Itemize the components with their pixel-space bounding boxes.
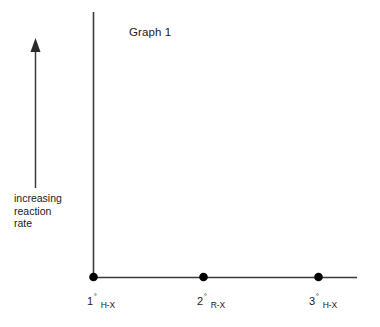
x-tick-ordinal-secondary: 2 [197, 295, 203, 307]
y-axis-label-line-3: rate [14, 217, 62, 230]
x-tick-species-tertiary: H-X [323, 300, 337, 310]
degree-icon-tertiary: ° [316, 292, 319, 301]
y-axis-label: increasing reaction rate [14, 192, 62, 230]
x-tick-label-tertiary: 3°H-X [309, 291, 337, 309]
x-tick-species-primary: H-X [101, 300, 115, 310]
x-tick-ordinal-primary: 1 [87, 295, 93, 307]
degree-icon-secondary: ° [204, 292, 207, 301]
y-axis-label-line-2: reaction [14, 205, 62, 218]
x-tick-ordinal-tertiary: 3 [309, 295, 315, 307]
degree-icon-primary: ° [94, 292, 97, 301]
graph-figure: Graph 1 increasing reaction rate 1°H-X 2… [0, 0, 380, 327]
x-tick-label-primary: 1°H-X [87, 291, 115, 309]
x-tick-label-secondary: 2°R-X [197, 291, 225, 309]
x-tick-species-secondary: R-X [211, 300, 225, 310]
y-axis-label-line-1: increasing [14, 192, 62, 205]
chart-text-layer: Graph 1 increasing reaction rate 1°H-X 2… [0, 0, 380, 327]
chart-title: Graph 1 [129, 26, 171, 38]
